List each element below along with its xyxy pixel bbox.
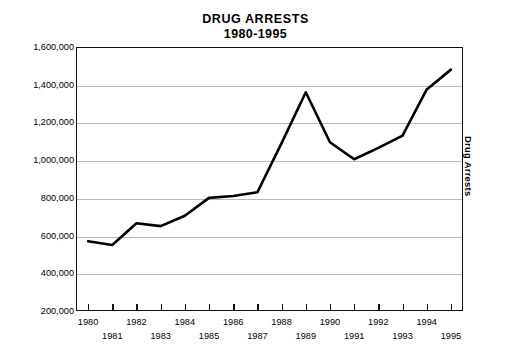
line-series-drug-arrests <box>88 70 451 245</box>
chart-page: DRUG ARRESTS 1980-1995 1,600,0001,400,00… <box>0 0 511 360</box>
series-layer <box>0 0 511 360</box>
